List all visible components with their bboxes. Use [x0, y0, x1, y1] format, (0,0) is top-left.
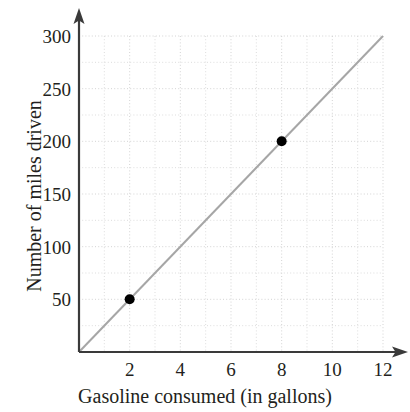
- x-axis-tick-label: 2: [125, 360, 135, 379]
- y-axis-title: Number of miles driven: [24, 56, 44, 336]
- x-axis-tick-label: 8: [277, 360, 287, 379]
- y-axis-tick-label: 150: [43, 185, 72, 204]
- y-axis-tick-label: 300: [43, 27, 72, 46]
- y-axis-tick-label: 200: [43, 132, 72, 151]
- x-axis-tick-label: 12: [374, 360, 393, 379]
- y-axis-tick-label: 50: [52, 290, 71, 309]
- chart-figure: 50100150200250300 24681012 Gasoline cons…: [0, 0, 410, 412]
- x-axis-title: Gasoline consumed (in gallons): [0, 386, 410, 406]
- y-axis-tick-label: 250: [43, 80, 72, 99]
- x-axis-tick-label: 4: [176, 360, 186, 379]
- x-axis-tick-labels: 24681012: [0, 360, 410, 384]
- y-axis-tick-label: 100: [43, 238, 72, 257]
- x-axis-tick-label: 10: [323, 360, 342, 379]
- x-axis-tick-label: 6: [226, 360, 236, 379]
